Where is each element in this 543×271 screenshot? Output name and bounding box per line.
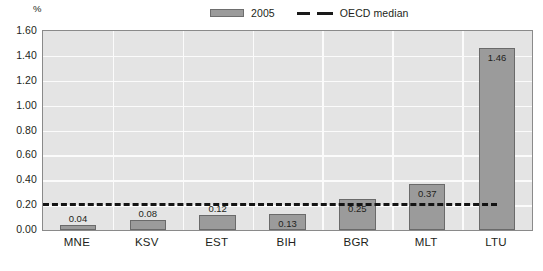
gridline-horizontal bbox=[43, 131, 532, 133]
legend-label-median: OECD median bbox=[340, 8, 409, 19]
bar-value-label: 0.08 bbox=[113, 208, 183, 219]
y-axis-tick-label: 0.20 bbox=[16, 198, 37, 210]
y-axis-tick-label: 1.00 bbox=[16, 99, 37, 111]
bar-chart: % 2005 OECD median 0.000.200.400.600.801… bbox=[0, 0, 543, 271]
y-axis-tick-label: 1.40 bbox=[16, 49, 37, 61]
y-axis-tick-label: 0.40 bbox=[16, 173, 37, 185]
gridline-horizontal bbox=[43, 81, 532, 83]
y-axis-tick-label: 0.00 bbox=[16, 223, 37, 235]
gridline-horizontal bbox=[43, 180, 532, 182]
y-axis-tick-label: 1.60 bbox=[16, 24, 37, 36]
median-line bbox=[43, 203, 497, 206]
gridline-horizontal bbox=[43, 56, 532, 58]
bar-value-label: 0.13 bbox=[253, 218, 323, 229]
bar-value-label: 0.37 bbox=[392, 188, 462, 199]
legend-item-series: 2005 bbox=[210, 8, 275, 19]
bar bbox=[130, 220, 166, 230]
gridline-vertical bbox=[183, 31, 185, 230]
legend-dashed-line-icon bbox=[297, 9, 333, 17]
bar bbox=[199, 215, 235, 230]
y-axis-tick-label: 0.60 bbox=[16, 148, 37, 160]
y-axis-tick-label: 0.80 bbox=[16, 124, 37, 136]
y-axis-tick-labels: 0.000.200.400.600.801.001.201.401.60 bbox=[0, 0, 40, 271]
x-axis-category-labels: MNEKSVESTBIHBGRMLTLTU bbox=[42, 236, 533, 260]
y-axis-tick-label: 1.20 bbox=[16, 74, 37, 86]
gridline-horizontal bbox=[43, 106, 532, 108]
legend-label-series: 2005 bbox=[251, 8, 275, 19]
gridline-vertical bbox=[392, 31, 394, 230]
x-axis-category-label: MLT bbox=[415, 236, 438, 248]
x-axis-category-label: KSV bbox=[135, 236, 159, 248]
x-axis-category-label: BIH bbox=[277, 236, 297, 248]
chart-legend: 2005 OECD median bbox=[210, 4, 409, 22]
bar-value-label: 1.46 bbox=[462, 52, 532, 63]
x-axis-category-label: EST bbox=[205, 236, 228, 248]
gridline-vertical bbox=[253, 31, 255, 230]
bar bbox=[60, 225, 96, 230]
x-axis-category-label: LTU bbox=[485, 236, 506, 248]
legend-item-median: OECD median bbox=[297, 8, 409, 19]
plot-area: 0.040.080.120.130.250.371.46 bbox=[42, 30, 533, 231]
gridline-horizontal bbox=[43, 155, 532, 157]
bar-value-label: 0.04 bbox=[43, 213, 113, 224]
gridline-vertical bbox=[113, 31, 115, 230]
legend-swatch-icon bbox=[210, 9, 244, 17]
x-axis-category-label: BGR bbox=[344, 236, 370, 248]
gridline-vertical bbox=[322, 31, 324, 230]
x-axis-category-label: MNE bbox=[64, 236, 90, 248]
